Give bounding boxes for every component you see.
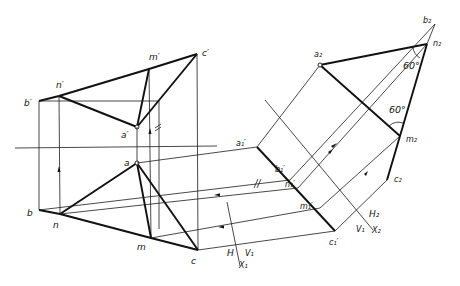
arrow-up-icon — [149, 128, 152, 134]
label-angle-bottom: 60° — [389, 104, 406, 115]
label-c2: c₂ — [394, 175, 402, 184]
label-a: a — [124, 158, 130, 168]
label-angle-top: 60° — [403, 60, 420, 71]
arrow-up-icon — [58, 166, 61, 172]
label-n: n — [53, 220, 59, 230]
axis-v-h — [15, 146, 217, 148]
edge-b-prime-c-prime — [39, 54, 197, 101]
label-axis-h2: H₂ — [369, 209, 380, 219]
front-view — [39, 54, 197, 129]
label-axis-x2: X₂ — [371, 226, 381, 235]
edge-a2-m2 — [320, 65, 400, 136]
label-n1-prime: n₁′ — [285, 180, 295, 189]
label-axis-v1-a: V₁ — [245, 249, 254, 258]
top-view — [39, 161, 198, 250]
label-c: c — [191, 256, 196, 266]
label-axis-x1: X₁ — [238, 261, 248, 270]
label-n-prime: n′ — [56, 80, 64, 90]
label-a2: a₂ — [314, 50, 323, 59]
label-m2: m₂ — [406, 135, 418, 144]
label-m1-prime: m₁′ — [300, 202, 313, 211]
label-b1-prime: b₁′ — [275, 165, 285, 174]
label-n2: n₂ — [433, 39, 442, 48]
edge-c-prime-a-prime — [137, 54, 197, 127]
label-b2: b₂ — [423, 16, 432, 25]
aux-view-2 — [318, 24, 435, 180]
descriptive-geometry-diagram: b′ n′ m′ c′ a′ a b n m c a₁′ b₁′ n₁′ m₁′… — [0, 0, 460, 286]
label-c1-prime: c₁′ — [329, 238, 339, 247]
label-c-prime: c′ — [202, 48, 209, 58]
arrow-up-right-icon — [364, 171, 368, 176]
point-a2 — [318, 63, 322, 67]
label-m: m — [137, 242, 146, 252]
label-b: b — [27, 208, 33, 218]
label-a1-prime: a₁′ — [236, 139, 246, 148]
label-b-prime: b′ — [24, 98, 32, 108]
label-axis-h: H — [227, 248, 234, 258]
angle-arc-bottom — [389, 122, 403, 126]
arrow-left-icon — [214, 193, 220, 196]
label-m-prime: m′ — [149, 52, 160, 62]
label-a-prime: a′ — [121, 130, 129, 140]
projection-lines-aux1-to-aux2 — [257, 24, 435, 231]
label-axis-v1-b: V₁ — [356, 225, 365, 234]
